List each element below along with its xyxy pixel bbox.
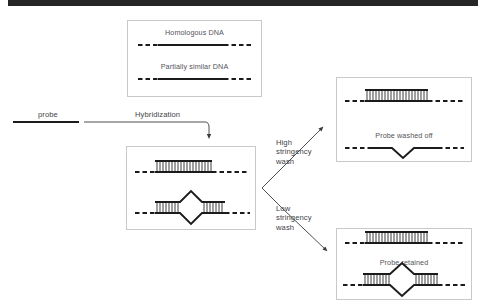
base-pair-rungs <box>367 232 427 243</box>
bubble-duplex-low <box>343 263 466 296</box>
base-pair-rungs-left <box>365 274 389 285</box>
low-stringency-result-graphics <box>0 0 488 305</box>
base-pair-rungs-right <box>416 274 437 285</box>
figure-canvas: Homologous DNA Partially similar DNA pro… <box>0 0 488 305</box>
perfect-duplex-low <box>345 232 464 243</box>
